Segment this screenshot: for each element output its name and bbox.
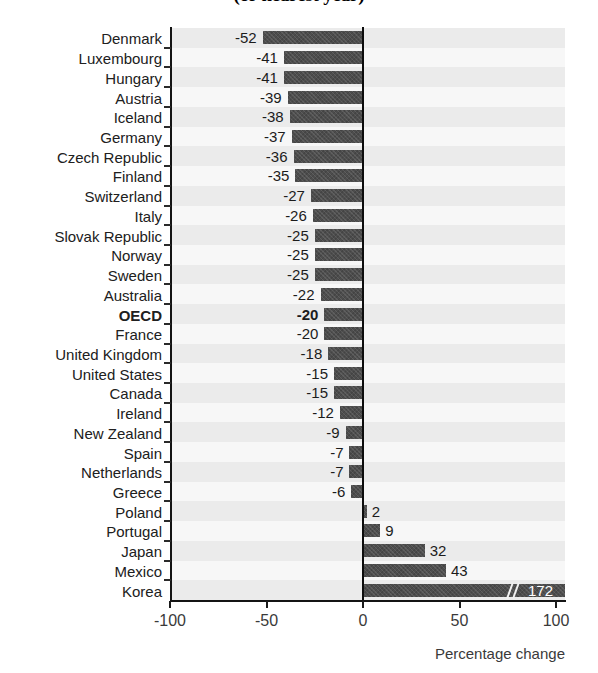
y-axis-tick	[164, 579, 171, 581]
category-label: Czech Republic	[0, 150, 162, 165]
bar[interactable]	[284, 51, 363, 64]
row-band	[170, 245, 565, 265]
y-axis-tick	[164, 205, 171, 207]
bar[interactable]	[315, 268, 363, 281]
bar-value-label: 2	[372, 505, 380, 518]
bar[interactable]	[349, 446, 363, 459]
bar[interactable]	[328, 347, 363, 360]
bar-value-label: -6	[285, 485, 345, 498]
bar-value-label: -7	[283, 465, 343, 478]
y-axis-tick	[164, 283, 171, 285]
bar[interactable]	[313, 209, 363, 222]
category-label: Germany	[0, 130, 162, 145]
category-label: France	[0, 327, 162, 342]
x-axis-line	[170, 600, 566, 602]
bar-value-label: -7	[283, 446, 343, 459]
category-label: Luxembourg	[0, 51, 162, 66]
x-axis-tick	[362, 601, 364, 608]
row-band	[170, 284, 565, 304]
row-band	[170, 206, 565, 226]
category-label: Ireland	[0, 406, 162, 421]
category-label: Mexico	[0, 564, 162, 579]
y-axis-tick	[164, 145, 171, 147]
bar[interactable]	[340, 406, 363, 419]
y-axis-tick	[164, 481, 171, 483]
bar[interactable]	[292, 130, 363, 143]
x-axis-tick-label: 0	[323, 612, 403, 630]
bar-value-label: -20	[258, 308, 318, 321]
bar[interactable]	[315, 248, 363, 261]
y-axis-tick	[164, 461, 171, 463]
bar-value-label: 172	[528, 584, 553, 597]
bar-value-label: -41	[218, 71, 278, 84]
row-band	[170, 265, 565, 285]
row-band	[170, 363, 565, 383]
y-axis-tick	[164, 47, 171, 49]
category-label: Korea	[0, 584, 162, 599]
bar-value-label: 32	[430, 544, 447, 557]
bar[interactable]	[290, 110, 363, 123]
row-band	[170, 501, 565, 521]
bar[interactable]	[288, 91, 363, 104]
bar[interactable]	[363, 544, 425, 557]
bar-value-label: -15	[268, 367, 328, 380]
category-label: Australia	[0, 288, 162, 303]
row-band	[170, 482, 565, 502]
bar[interactable]	[324, 308, 363, 321]
bar[interactable]	[334, 386, 363, 399]
bar[interactable]	[346, 426, 363, 439]
y-axis-tick	[164, 66, 171, 68]
bar[interactable]	[349, 465, 363, 478]
category-label: Spain	[0, 446, 162, 461]
y-axis-tick	[164, 165, 171, 167]
x-axis-title: Percentage change	[0, 645, 565, 662]
axis-break-icon	[507, 583, 523, 598]
bar-value-label: -22	[255, 288, 315, 301]
bar[interactable]	[284, 71, 363, 84]
row-band	[170, 324, 565, 344]
bar-value-label: 9	[385, 524, 393, 537]
bar-value-label: -36	[228, 150, 288, 163]
y-axis-tick	[164, 520, 171, 522]
chart-title: (or nearest year)	[0, 0, 598, 6]
bar[interactable]	[295, 169, 363, 182]
bar[interactable]	[334, 367, 363, 380]
bar[interactable]	[363, 524, 380, 537]
bar-value-label: -52	[197, 31, 257, 44]
bar-value-label: -25	[249, 268, 309, 281]
category-label: Sweden	[0, 268, 162, 283]
bar-value-label: -27	[245, 189, 305, 202]
bar-value-label: -26	[247, 209, 307, 222]
bar-value-label: 43	[451, 564, 468, 577]
bar[interactable]	[321, 288, 363, 301]
category-label: United States	[0, 367, 162, 382]
bar[interactable]	[363, 564, 446, 577]
bar-value-label: -18	[262, 347, 322, 360]
bar-value-label: -25	[249, 248, 309, 261]
x-axis-tick	[266, 601, 268, 608]
category-label: Canada	[0, 386, 162, 401]
category-label: Netherlands	[0, 465, 162, 480]
bar[interactable]	[263, 31, 363, 44]
bar[interactable]	[324, 327, 363, 340]
category-label: New Zealand	[0, 426, 162, 441]
category-label: Austria	[0, 91, 162, 106]
x-axis-tick-label: -50	[227, 612, 307, 630]
bar[interactable]	[315, 229, 363, 242]
bar[interactable]	[294, 150, 363, 163]
row-band	[170, 344, 565, 364]
row-band	[170, 462, 565, 482]
bar-value-label: -20	[258, 327, 318, 340]
bar-value-label: -9	[280, 426, 340, 439]
bar-value-label: -37	[226, 130, 286, 143]
y-axis-tick	[164, 500, 171, 502]
bar-value-label: -12	[274, 406, 334, 419]
bar[interactable]	[311, 189, 363, 202]
bar-value-label: -25	[249, 229, 309, 242]
category-label: Greece	[0, 485, 162, 500]
category-label: Slovak Republic	[0, 229, 162, 244]
x-axis-tick	[555, 601, 557, 608]
y-axis-tick	[164, 402, 171, 404]
y-axis-tick	[164, 382, 171, 384]
category-label: Italy	[0, 209, 162, 224]
